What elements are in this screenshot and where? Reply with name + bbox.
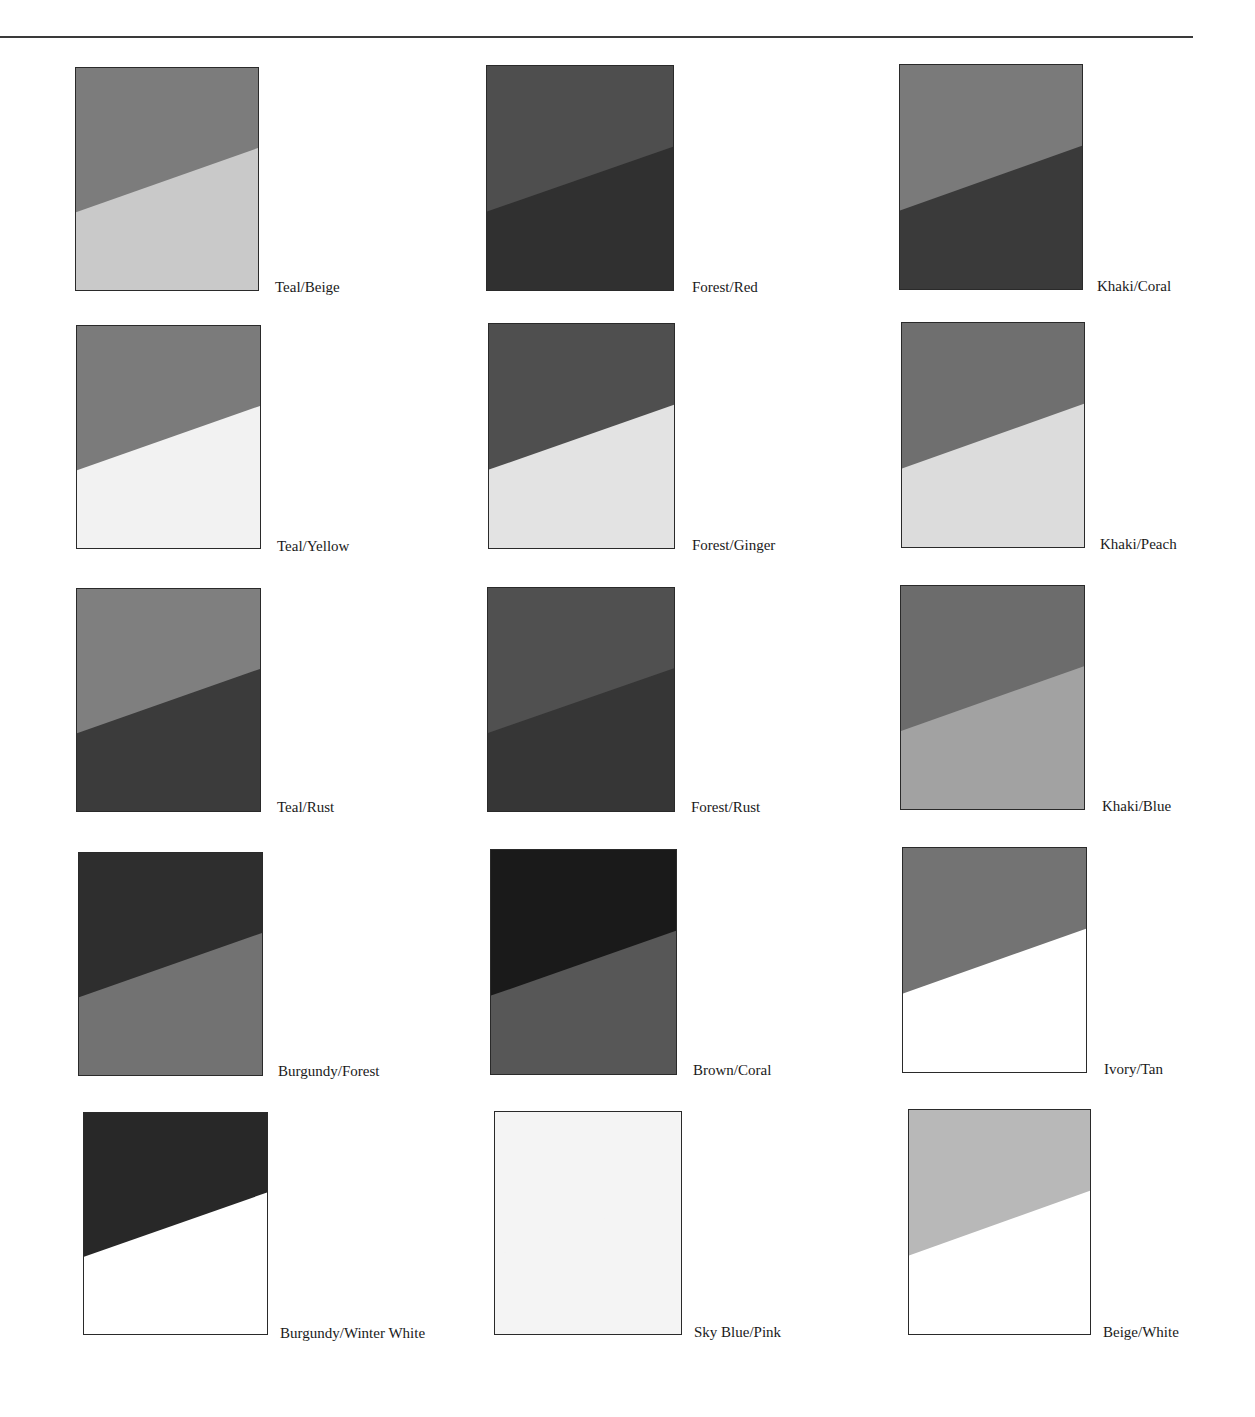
- swatch-label: Teal/Beige: [275, 280, 340, 295]
- swatch-label: Khaki/Blue: [1102, 799, 1171, 814]
- swatch-label: Brown/Coral: [693, 1063, 771, 1078]
- swatch-label: Ivory/Tan: [1104, 1062, 1163, 1077]
- swatch-label: Teal/Rust: [277, 800, 334, 815]
- swatch-teal-beige: [75, 67, 259, 291]
- swatch-ivory-tan: [902, 847, 1087, 1073]
- swatch-burgundy-forest: [78, 852, 263, 1076]
- swatch-brown-coral: [490, 849, 677, 1075]
- swatch-khaki-coral: [899, 64, 1083, 290]
- swatch-teal-rust: [76, 588, 261, 812]
- swatch-label: Burgundy/Forest: [278, 1064, 379, 1079]
- swatch-label: Beige/White: [1103, 1325, 1179, 1340]
- swatch-forest-rust: [487, 587, 675, 812]
- swatch-burgundy-winter-white: [83, 1112, 268, 1335]
- swatch-forest-red: [486, 65, 674, 291]
- swatch-teal-yellow: [76, 325, 261, 549]
- swatch-beige-white: [908, 1109, 1091, 1335]
- swatch-label: Sky Blue/Pink: [694, 1325, 781, 1340]
- swatch-label: Burgundy/Winter White: [280, 1326, 425, 1341]
- top-rule: [0, 36, 1193, 38]
- swatch-label: Forest/Rust: [691, 800, 760, 815]
- swatch-forest-ginger: [488, 323, 675, 549]
- swatch-sky-blue-pink: [494, 1111, 682, 1335]
- swatch-label: Khaki/Coral: [1097, 279, 1171, 294]
- swatch-label: Forest/Red: [692, 280, 758, 295]
- swatch-khaki-peach: [901, 322, 1085, 548]
- swatch-label: Khaki/Peach: [1100, 537, 1177, 552]
- swatch-label: Forest/Ginger: [692, 538, 775, 553]
- swatch-khaki-blue: [900, 585, 1085, 810]
- swatch-label: Teal/Yellow: [277, 539, 349, 554]
